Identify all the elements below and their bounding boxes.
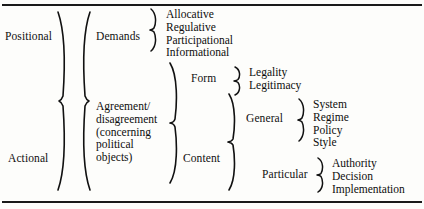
item-legality: Legality: [249, 66, 301, 79]
item-informational: Informational: [166, 46, 233, 59]
item-style: Style: [313, 136, 349, 149]
label-agreement-line-1: Agreement/: [96, 100, 157, 113]
brace-form: [232, 66, 244, 96]
brace-content: [226, 93, 239, 191]
list-demands-items: Allocative Regulative Participational In…: [166, 8, 233, 59]
brace-agreement: [167, 62, 181, 184]
label-demands: Demands: [96, 30, 140, 43]
item-system: System: [313, 98, 349, 111]
item-decision: Decision: [332, 170, 405, 183]
label-agreement-line-2: disagreement: [96, 113, 157, 126]
brace-general: [296, 98, 308, 142]
label-agreement-line-5: objects): [96, 151, 157, 164]
list-form-items: Legality Legitimacy: [249, 66, 301, 92]
list-general-items: System Regime Policy Style: [313, 98, 349, 149]
label-positional: Positional: [5, 30, 52, 43]
label-agreement-line-3: (concerning: [96, 126, 157, 139]
item-policy: Policy: [313, 124, 349, 137]
item-participational: Participational: [166, 34, 233, 47]
item-allocative: Allocative: [166, 8, 233, 21]
label-form: Form: [191, 72, 216, 85]
item-regime: Regime: [313, 111, 349, 124]
list-particular-items: Authority Decision Implementation: [332, 157, 405, 195]
brace-demands: [148, 8, 160, 52]
brace-level1-close: [56, 10, 70, 192]
item-legitimacy: Legitimacy: [249, 79, 301, 92]
figure-canvas: Positional Actional Demands Agreement/ d…: [0, 0, 424, 209]
label-agreement-line-4: political: [96, 138, 157, 151]
label-particular: Particular: [262, 168, 308, 181]
top-rule: [2, 4, 422, 6]
bottom-rule: [2, 201, 422, 203]
item-implementation: Implementation: [332, 183, 405, 196]
item-authority: Authority: [332, 157, 405, 170]
label-actional: Actional: [8, 152, 48, 165]
label-content: Content: [183, 152, 220, 165]
item-regulative: Regulative: [166, 21, 233, 34]
label-agreement-disagreement: Agreement/ disagreement (concerning poli…: [96, 100, 157, 164]
brace-level2-open: [78, 10, 92, 192]
label-general: General: [246, 112, 283, 125]
brace-particular: [315, 157, 327, 193]
